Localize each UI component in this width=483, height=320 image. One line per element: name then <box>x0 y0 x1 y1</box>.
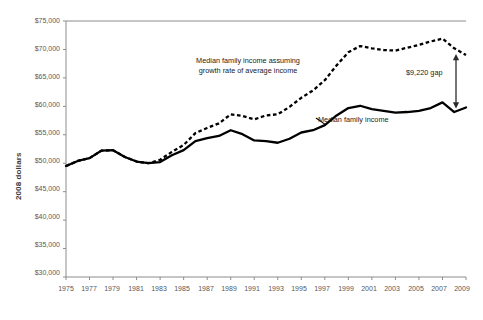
plot-area <box>0 0 483 320</box>
annotation-assumed-growth-line2: growth rate of average income <box>186 66 310 76</box>
annotation-assumed-growth-line1: Median family income assuming <box>186 56 310 66</box>
chart-figure: 2008 dollars $75,000 $70,000 $65,000 $60… <box>0 0 483 320</box>
annotation-median-family-income-label: Median family income <box>318 115 389 125</box>
gap-arrow-icon <box>453 54 459 108</box>
annotation-gap-label: $9,220 gap <box>406 68 443 78</box>
series-line-median-family-income <box>66 102 466 166</box>
annotation-assumed-growth-label: Median family income assuming growth rat… <box>186 56 310 75</box>
